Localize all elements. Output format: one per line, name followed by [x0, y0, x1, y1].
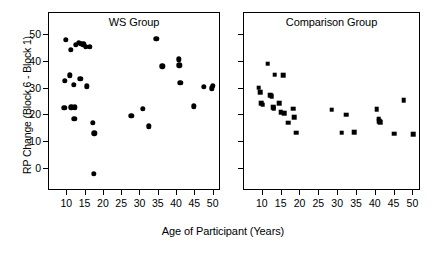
data-point: [378, 120, 383, 125]
y-tick: [43, 34, 48, 35]
panel-comparison-group: Comparison Group 101520253035404550: [243, 12, 420, 190]
data-point: [260, 102, 265, 107]
y-tick: [238, 34, 243, 35]
data-point: [282, 111, 287, 116]
x-tick-label: 15: [79, 197, 91, 209]
y-tick-label: 10: [29, 135, 41, 147]
data-point: [286, 120, 291, 125]
x-tick-label: 45: [388, 197, 400, 209]
x-tick: [318, 190, 319, 195]
data-point: [344, 112, 349, 117]
data-point: [392, 131, 397, 136]
data-point: [294, 130, 299, 135]
y-tick-label: 40: [29, 55, 41, 67]
data-point: [292, 115, 297, 120]
x-tick-label: 15: [275, 197, 287, 209]
x-tick: [412, 190, 413, 195]
y-tick-label: 0: [35, 162, 41, 174]
data-point: [277, 101, 282, 106]
data-point: [281, 73, 286, 78]
data-point: [339, 131, 344, 136]
x-tick: [85, 190, 86, 195]
y-tick-label: 30: [29, 82, 41, 94]
data-point: [330, 107, 335, 112]
x-tick-label: 50: [407, 197, 419, 209]
x-tick: [121, 190, 122, 195]
x-tick-label: 45: [189, 197, 201, 209]
x-tick: [262, 190, 263, 195]
data-point: [266, 61, 271, 66]
y-tick: [238, 88, 243, 89]
x-tick: [158, 190, 159, 195]
y-tick: [43, 61, 48, 62]
x-tick: [66, 190, 67, 195]
x-tick-label: 20: [294, 197, 306, 209]
x-tick-label: 10: [60, 197, 72, 209]
x-tick: [103, 190, 104, 195]
y-tick: [238, 61, 243, 62]
data-point: [402, 98, 407, 103]
y-tick: [43, 168, 48, 169]
y-tick: [43, 114, 48, 115]
y-tick: [238, 141, 243, 142]
x-tick-label: 35: [350, 197, 362, 209]
data-point: [374, 107, 379, 112]
x-tick: [176, 190, 177, 195]
x-tick: [213, 190, 214, 195]
x-tick: [194, 190, 195, 195]
panel-title: Comparison Group: [243, 16, 420, 28]
x-tick-label: 25: [312, 197, 324, 209]
x-axis-title: Age of Participant (Years): [0, 225, 446, 237]
x-tick-label: 35: [152, 197, 164, 209]
x-tick: [299, 190, 300, 195]
y-tick: [43, 88, 48, 89]
x-tick: [139, 190, 140, 195]
panel-title: WS Group: [48, 16, 220, 28]
y-tick-label: 50: [29, 28, 41, 40]
y-tick: [238, 168, 243, 169]
x-tick-label: 40: [369, 197, 381, 209]
x-tick: [281, 190, 282, 195]
data-point: [258, 90, 263, 95]
x-tick-label: 10: [256, 197, 268, 209]
data-point: [272, 72, 277, 77]
data-point: [272, 106, 277, 111]
panel-frame: [243, 12, 420, 190]
x-tick: [375, 190, 376, 195]
x-tick-label: 50: [207, 197, 219, 209]
data-point: [352, 130, 357, 135]
data-point: [291, 107, 296, 112]
x-tick: [356, 190, 357, 195]
x-tick-label: 25: [115, 197, 127, 209]
panel-ws-group: WS Group 01020304050101520253035404550: [48, 12, 220, 190]
y-tick: [43, 141, 48, 142]
scatter-plot-figure: RP Change (Block 6 - Block 1) WS Group 0…: [0, 0, 446, 256]
data-point: [411, 132, 416, 137]
x-tick-label: 30: [331, 197, 343, 209]
x-tick: [337, 190, 338, 195]
data-point: [269, 94, 274, 99]
x-tick: [394, 190, 395, 195]
y-tick-label: 20: [29, 108, 41, 120]
y-tick: [238, 114, 243, 115]
x-tick-label: 40: [170, 197, 182, 209]
x-tick-label: 30: [134, 197, 146, 209]
panel-frame: [48, 12, 220, 190]
x-tick-label: 20: [97, 197, 109, 209]
